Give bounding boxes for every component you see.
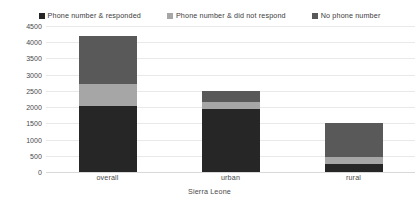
stacked-bar-chart: Phone number & responded Phone number & … [0, 0, 419, 206]
legend-item-no-phone[interactable]: No phone number [312, 12, 381, 19]
y-axis-tick-label: 2000 [26, 104, 42, 111]
legend-swatch-no-response [167, 13, 173, 19]
y-axis-tick-label: 3500 [26, 55, 42, 62]
bar-segment-overall-s2[interactable] [79, 36, 137, 85]
legend-label-no-phone: No phone number [321, 12, 381, 19]
x-axis-tick-overall: overall [46, 174, 169, 181]
y-axis-tick-label: 500 [30, 152, 42, 159]
plot-area [46, 26, 415, 172]
legend-swatch-no-phone [312, 13, 318, 19]
x-axis-tick-rural: rural [292, 174, 415, 181]
y-axis: 050010001500200025003000350040004500 [0, 26, 46, 172]
legend-item-responded[interactable]: Phone number & responded [39, 12, 141, 19]
x-axis-title: Sierra Leone [0, 188, 419, 195]
legend-label-responded: Phone number & responded [48, 12, 141, 19]
bar-stack [202, 91, 260, 172]
y-axis-tick-label: 4500 [26, 23, 42, 30]
x-axis: overallurbanrural [46, 174, 415, 186]
bar-segment-overall-s1[interactable] [79, 84, 137, 105]
bar-column-urban[interactable] [169, 26, 292, 172]
bar-stack [325, 123, 383, 172]
bar-column-overall[interactable] [46, 26, 169, 172]
bar-segment-urban-s2[interactable] [202, 91, 260, 102]
legend-swatch-responded [39, 13, 45, 19]
y-axis-tick-label: 0 [38, 169, 42, 176]
bar-segment-rural-s0[interactable] [325, 164, 383, 172]
bar-stack [79, 36, 137, 172]
x-axis-tick-urban: urban [169, 174, 292, 181]
legend-label-no-response: Phone number & did not respond [176, 12, 286, 19]
bars-layer [46, 26, 415, 172]
bar-segment-rural-s2[interactable] [325, 123, 383, 157]
chart-legend: Phone number & responded Phone number & … [0, 9, 419, 23]
y-axis-tick-label: 1500 [26, 120, 42, 127]
plot-wrapper: 050010001500200025003000350040004500 [0, 26, 419, 172]
y-axis-tick-label: 2500 [26, 87, 42, 94]
legend-item-no-response[interactable]: Phone number & did not respond [167, 12, 286, 19]
bar-column-rural[interactable] [292, 26, 415, 172]
bar-segment-overall-s0[interactable] [79, 106, 137, 173]
y-axis-tick-label: 1000 [26, 136, 42, 143]
y-axis-tick-label: 4000 [26, 39, 42, 46]
bar-segment-urban-s0[interactable] [202, 109, 260, 172]
y-axis-tick-label: 3000 [26, 71, 42, 78]
